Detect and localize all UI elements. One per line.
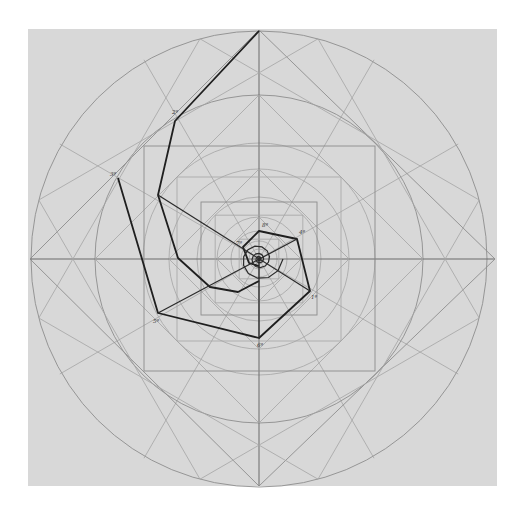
vertex-label: 5ª [153, 318, 159, 324]
vertex-label: 3ª [110, 171, 116, 177]
vertex-label: 7ª [236, 240, 242, 246]
vertex-label: 4ª [298, 229, 305, 235]
vertex-label: 2ª [171, 109, 178, 115]
vertex-label: 8ª [262, 222, 268, 228]
spiral-construction-diagram: 2ª3ª5ª6ª1ª4ª8ª7ª [0, 0, 525, 511]
vertex-label: 6ª [257, 342, 263, 348]
vertex-label: 1ª [311, 294, 317, 300]
